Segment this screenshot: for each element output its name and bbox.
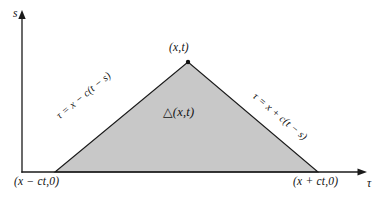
apex-vertex-label: (x,t) <box>169 42 189 54</box>
s-axis-arrowhead-icon <box>18 10 25 19</box>
tau-axis-label: τ <box>367 178 371 190</box>
right-base-vertex-label: (x + ct,0) <box>293 176 338 188</box>
apex-point-marker <box>186 60 190 64</box>
characteristic-triangle-figure: s τ (x,t) (x − ct,0) (x + ct,0) △(x,t) τ… <box>0 0 392 205</box>
tau-axis-arrowhead-icon <box>358 168 368 175</box>
s-axis-label: s <box>13 8 18 20</box>
triangle-region-label: △(x,t) <box>163 106 194 119</box>
left-base-vertex-label: (x − ct,0) <box>14 176 59 188</box>
